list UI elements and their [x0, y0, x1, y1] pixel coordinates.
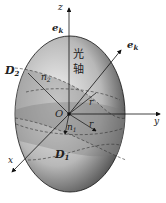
x-label: x: [8, 155, 13, 165]
ek-top-label: ek: [52, 22, 63, 35]
r-lower-label: r: [89, 119, 94, 129]
diagram-canvas: z ek ek 光 轴 D2 n2 r O r n1 y D1 x: [0, 0, 166, 203]
origin-label: O: [55, 108, 63, 119]
origin-point: [67, 112, 71, 116]
ek-right-label: ek: [127, 39, 138, 52]
r-upper-label: r: [89, 97, 94, 107]
y-label: y: [153, 116, 160, 126]
ellipsoid-diagram: z ek ek 光 轴 D2 n2 r O r n1 y D1 x: [0, 0, 166, 203]
optic-axis-label-2: 轴: [73, 62, 84, 76]
z-label: z: [57, 2, 63, 12]
d2-label: D2: [4, 64, 20, 78]
optic-axis-label-1: 光: [73, 47, 84, 61]
